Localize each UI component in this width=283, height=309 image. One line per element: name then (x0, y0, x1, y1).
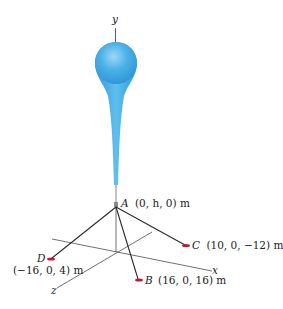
point-c-label: C (10, 0, −12) m (192, 239, 283, 251)
point-b-label: B (16, 0, 16) m (144, 274, 226, 286)
anchor-b (135, 278, 143, 281)
y-axis-label: y (111, 13, 119, 25)
z-axis-label: z (50, 284, 57, 296)
cable-ad (52, 207, 116, 258)
anchor-d (47, 257, 55, 260)
balloon (95, 42, 137, 185)
point-a-marker (114, 202, 118, 207)
balloon-tether-diagram: y x z A (0, h, 0) m C (10, 0, −12) m B (… (0, 0, 283, 309)
point-d-coords: (−16, 0, 4) m (13, 264, 83, 276)
point-a-label: A (0, h, 0) m (120, 197, 190, 209)
anchor-c (182, 244, 190, 247)
point-d-name: D (36, 252, 46, 264)
